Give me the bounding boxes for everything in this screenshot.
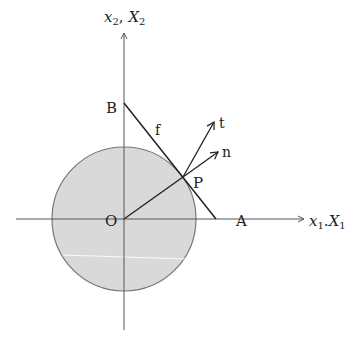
point-A-label: A — [235, 212, 247, 230]
vector-n-label: n — [222, 144, 231, 160]
point-P-label: P — [193, 174, 203, 192]
vector-t-label: t — [219, 115, 225, 131]
x1-axis-label: x1.X1 — [309, 212, 346, 231]
diagram-canvas: x2, X2 x1.X1 B A O P f t n — [0, 0, 358, 345]
line-f-label: f — [155, 122, 162, 138]
point-O-label: O — [105, 212, 117, 230]
point-B-label: B — [106, 99, 117, 117]
tangent-vector-t — [183, 122, 214, 177]
x2-axis-label: x2, X2 — [104, 8, 145, 27]
